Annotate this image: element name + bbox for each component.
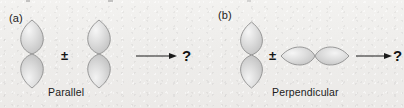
panel-b-result-question-mark: ?: [393, 48, 402, 63]
crop-artifact-left: [26, 0, 30, 2]
panel-a-reaction-arrow: [136, 50, 177, 62]
crop-artifact-far-right: [247, 0, 251, 2]
panel-b-caption: Perpendicular: [272, 86, 339, 98]
panel-b-p-orbital-horizontal: [280, 43, 350, 69]
panel-b-label: (b): [218, 9, 232, 21]
panel-a-result-question-mark: ?: [182, 48, 191, 63]
panel-a-caption: Parallel: [48, 86, 84, 98]
panel-a-p-orbital-vertical-right: [82, 19, 116, 89]
panel-b-reaction-arrow: [356, 50, 392, 62]
panel-a-arrow-shaft: [136, 56, 172, 57]
panel-b-arrow-shaft: [356, 56, 387, 57]
orbital-overlap-figure: (a) ±: [0, 0, 404, 108]
panel-b-arrow-head: [384, 53, 392, 59]
panel-a-plus-minus-operator: ±: [61, 49, 68, 62]
panel-a-p-orbital-vertical-left: [15, 19, 49, 89]
crop-artifact-right: [108, 0, 113, 2]
panel-b-p-orbital-vertical: [235, 21, 268, 89]
panel-a-arrow-head: [169, 53, 177, 59]
panel-b-plus-minus-operator: ±: [269, 49, 276, 62]
